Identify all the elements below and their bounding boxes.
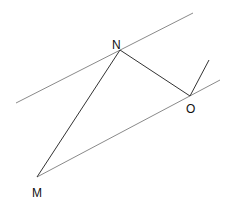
lower-parallel-line (37, 80, 220, 177)
upper-parallel-line (16, 13, 193, 103)
point-label-O: O (186, 102, 195, 116)
segment-MN (37, 50, 120, 177)
point-label-N: N (112, 38, 121, 52)
geometry-diagram: N O M (0, 0, 232, 207)
point-label-M: M (32, 186, 42, 200)
segment-NO (120, 50, 190, 96)
